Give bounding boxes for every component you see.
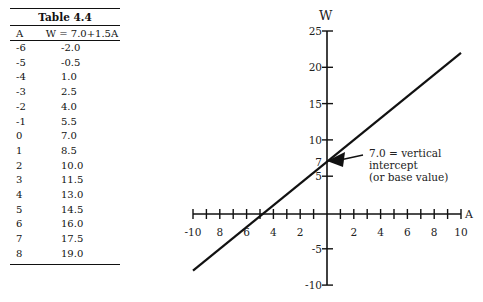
x-tick-label: 8 — [431, 226, 438, 238]
y-tick-label: 10 — [309, 134, 322, 146]
y-tick-label: 25 — [309, 25, 322, 37]
y-axis-label: W — [319, 8, 333, 23]
x-axis-label: A — [464, 208, 474, 221]
x-tick-label: 6 — [404, 226, 411, 238]
x-tick-label: 2 — [350, 226, 357, 238]
x-tick-label: -10 — [185, 226, 202, 238]
y-tick-label: 15 — [309, 98, 322, 110]
intercept-arrow-icon — [327, 152, 363, 167]
x-tick-label: 10 — [454, 226, 467, 238]
y-tick-label: -5 — [312, 243, 322, 255]
y-tick-label: -10 — [305, 279, 322, 291]
annotation-line-1: 7.0 = vertical — [369, 147, 442, 159]
y-tick-label: 5 — [315, 170, 322, 182]
y-tick-labels: 2520151075-5-10 — [305, 25, 322, 291]
x-tick-label: 2 — [297, 226, 304, 238]
x-tick-label: 4 — [377, 226, 384, 238]
x-tick-label: 4 — [270, 226, 277, 238]
x-tick-labels: -108642246810 — [185, 226, 468, 238]
annotation-line-3: (or base value) — [369, 171, 448, 183]
x-tick-label: 8 — [216, 226, 223, 238]
annotation-line-2: intercept — [369, 159, 418, 171]
line-chart: W A -108642246810 2520151075-5-10 7.0 = … — [0, 0, 483, 302]
y-tick-label: 20 — [309, 61, 322, 73]
